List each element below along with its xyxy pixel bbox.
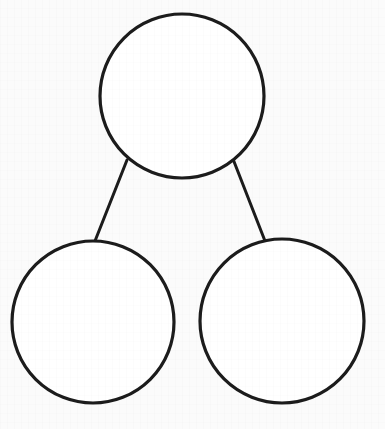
connector-right-line [233, 159, 265, 241]
node-whole[interactable] [100, 14, 264, 178]
part-right-circle[interactable] [200, 239, 364, 403]
part-left-circle[interactable] [12, 241, 174, 403]
connector-left-line [95, 160, 127, 241]
node-part-right[interactable] [200, 239, 364, 403]
number-bond-diagram [0, 0, 385, 429]
whole-circle[interactable] [100, 14, 264, 178]
node-part-left[interactable] [12, 241, 174, 403]
diagram-canvas [0, 0, 385, 429]
